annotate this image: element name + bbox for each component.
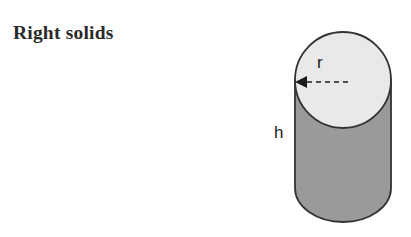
figure-canvas: Right solids r h — [0, 0, 411, 237]
page-title: Right solids — [13, 22, 113, 44]
radius-label: r — [317, 54, 323, 71]
height-label: h — [274, 124, 283, 141]
cylinder-top-face — [295, 32, 391, 128]
